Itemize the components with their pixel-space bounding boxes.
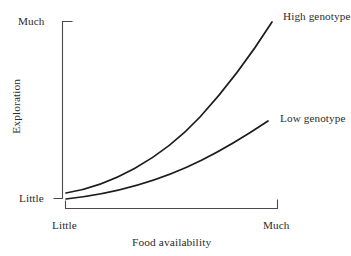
x-axis-title: Food availability (132, 236, 211, 249)
series-label-low-genotype: Low genotype (280, 112, 346, 124)
y-axis-tick-label-top: Much (18, 15, 45, 27)
chart-plot-area (0, 0, 351, 256)
y-axis-spine (54, 22, 73, 199)
x-axis-tick-label-left: Little (52, 219, 77, 231)
series-label-high-genotype: High genotype (283, 10, 350, 22)
x-axis-spine (66, 200, 278, 209)
chart-figure: Much Little Little Much Food availabilit… (0, 0, 351, 256)
y-axis-tick-label-bottom: Little (19, 192, 44, 204)
x-axis-tick-label-right: Much (263, 219, 290, 231)
y-axis-title: Exploration (10, 66, 23, 146)
series-curve-low-genotype (66, 121, 268, 199)
series-curve-high-genotype (66, 22, 272, 193)
